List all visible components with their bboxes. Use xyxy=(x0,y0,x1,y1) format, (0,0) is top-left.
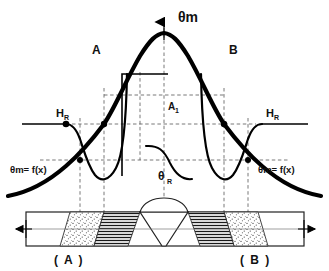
reference-grid xyxy=(40,22,290,213)
section-label-b: ( B ) xyxy=(240,253,271,267)
section-label-a: ( A ) xyxy=(54,253,84,267)
curve-hr-right-branch xyxy=(201,74,262,179)
plate-cross-section xyxy=(16,198,315,246)
label-theta-r-main: θ xyxy=(158,169,165,183)
label-theta-r-subscript: R xyxy=(167,178,172,185)
label-hr-left: H R xyxy=(56,107,69,121)
temperature-distribution-diagram: θm A B H R H R A 1 θ R θm= f(x) θm= f(x) xyxy=(0,0,329,271)
axis-label-theta-m: θm xyxy=(178,9,198,25)
figure-container: θm A B H R H R A 1 θ R θm= f(x) θm= f(x) xyxy=(0,0,329,271)
label-theta-r: θ R xyxy=(158,169,172,185)
label-hr-right-main: H xyxy=(266,107,274,119)
label-hr-right: H R xyxy=(266,107,279,121)
label-function-left: θm= f(x) xyxy=(10,164,47,175)
curve-theta-r-inner xyxy=(146,146,192,179)
node-left-inner xyxy=(101,121,107,127)
node-right-inner xyxy=(221,121,227,127)
a1-step-outline xyxy=(122,74,168,176)
label-hr-right-subscript: R xyxy=(274,114,279,121)
zone-label-a: A xyxy=(92,43,101,57)
label-hr-left-main: H xyxy=(56,107,64,119)
node-left-lower xyxy=(77,157,83,163)
zone-label-b: B xyxy=(229,43,238,57)
label-function-right: θm= f(x) xyxy=(258,164,295,175)
label-a1-subscript: 1 xyxy=(175,107,179,114)
curve-hr-left-branch xyxy=(66,74,127,179)
weld-cap-bead xyxy=(140,198,188,212)
node-left-hr xyxy=(63,121,70,128)
label-a1: A 1 xyxy=(168,101,179,114)
node-right-lower xyxy=(245,157,251,163)
label-hr-left-subscript: R xyxy=(64,114,69,121)
